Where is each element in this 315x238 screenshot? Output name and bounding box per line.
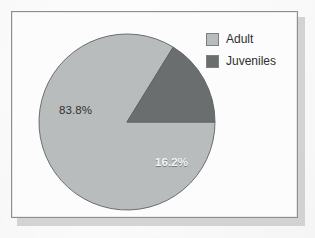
legend-item-juveniles: Juveniles <box>206 52 276 71</box>
legend-item-adult: Adult <box>206 30 276 49</box>
legend: Adult Juveniles <box>206 30 276 74</box>
slice-label-juveniles: 16.2% <box>155 156 188 168</box>
pie-chart-figure: 83.8% 16.2% Adult Juveniles <box>0 0 315 238</box>
legend-label-adult: Adult <box>226 33 253 46</box>
legend-swatch-juveniles <box>206 55 219 68</box>
plot-area: 83.8% 16.2% Adult Juveniles <box>12 12 297 217</box>
plot-frame: 83.8% 16.2% Adult Juveniles <box>11 11 298 218</box>
slice-label-adult: 83.8% <box>59 104 92 116</box>
legend-swatch-adult <box>206 33 219 46</box>
pie-slices <box>39 34 215 210</box>
legend-label-juveniles: Juveniles <box>226 55 276 68</box>
